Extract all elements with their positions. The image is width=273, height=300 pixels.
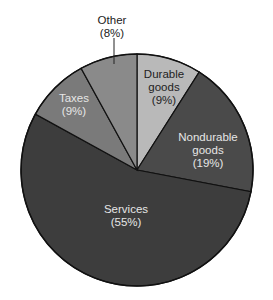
pie-slices	[21, 54, 253, 286]
label-nondurable-2: goods	[192, 144, 224, 156]
label-other-value: (8%)	[100, 27, 124, 39]
label-nondurable-1: Nondurable	[178, 131, 237, 143]
label-services-2: (55%)	[111, 216, 142, 228]
label-nondurable-3: (19%)	[193, 157, 224, 169]
label-durable-3: (9%)	[152, 94, 176, 106]
label-other-name: Other	[98, 14, 127, 26]
label-taxes-2: (9%)	[62, 105, 86, 117]
label-taxes-1: Taxes	[59, 92, 89, 104]
label-durable-1: Durable	[144, 68, 184, 80]
label-durable-2: goods	[148, 81, 180, 93]
label-services-1: Services	[104, 203, 148, 215]
pie-chart: Other (8%) Durable goods (9%) Nondurable…	[0, 0, 273, 300]
